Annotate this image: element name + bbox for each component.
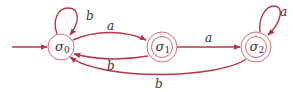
edge-s0-s1-a [73,33,146,41]
edge-label-s2-s0: b [155,77,163,91]
edge-label-s2-s2: a [280,5,287,19]
edge-s0-s0-b [55,8,77,35]
edge-s2-s2-a [260,6,281,35]
state-sigma-1: σ1 [147,32,177,62]
state-sigma-2: σ2 [241,32,271,62]
edge-label-s0-s0: b [86,9,94,23]
state-sigma-0: σ0 [48,34,74,60]
state-diagram: σ0 σ1 σ2 b a b a a b [0,0,293,92]
edge-label-s0-s1: a [107,19,114,33]
edge-label-s1-s2: a [205,31,212,45]
